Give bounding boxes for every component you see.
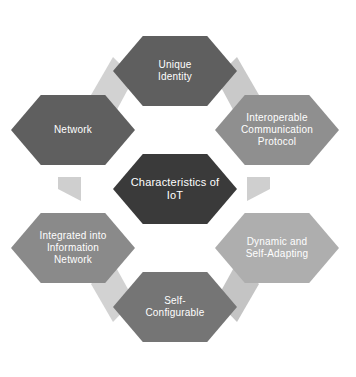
hexagon-cluster-svg bbox=[0, 0, 356, 377]
bevel-right bbox=[247, 177, 270, 201]
hexagon-unique-identity[interactable] bbox=[113, 36, 237, 106]
iot-characteristics-diagram: Characteristics of IoTUnique IdentityInt… bbox=[0, 0, 356, 377]
bevel-left bbox=[58, 177, 81, 201]
hexagon-characteristics-of-iot[interactable] bbox=[113, 154, 237, 224]
hexagon-self-configurable[interactable] bbox=[113, 272, 237, 342]
